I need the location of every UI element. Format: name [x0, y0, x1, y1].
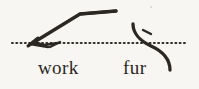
paper-speck	[150, 6, 152, 8]
shorthand-drawing	[0, 0, 199, 89]
label-fur: fur	[123, 58, 146, 77]
label-work: work	[38, 58, 79, 77]
shorthand-figure: work fur	[0, 0, 199, 89]
